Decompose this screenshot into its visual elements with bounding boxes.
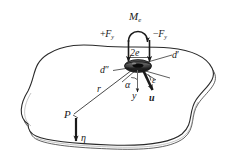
label-force-right: −Fy — [153, 29, 167, 39]
label-moment-sub: e — [138, 16, 141, 23]
label-d-prime: d′ — [172, 50, 179, 60]
label-d-prime-mark: ′ — [177, 49, 179, 60]
moment-arc-icon — [128, 32, 147, 43]
label-d-double-prime-mark: ″ — [105, 64, 109, 75]
label-moment-base: M — [129, 10, 138, 22]
figure-root: Me +Fy −Fy 2e d′ d″ r α ε y u P η — [0, 0, 228, 161]
plate-body — [21, 45, 215, 149]
label-force-right-sub: y — [164, 33, 167, 40]
label-d-double-prime: d″ — [100, 65, 109, 75]
label-alpha: α — [125, 80, 130, 90]
label-eta: η — [81, 133, 86, 143]
label-axis-y: y — [132, 91, 136, 101]
label-force-left: +Fy — [100, 29, 114, 39]
label-vector-u: u — [149, 93, 155, 103]
label-epsilon: ε — [152, 76, 156, 85]
label-crack-width: 2e — [130, 48, 139, 58]
label-radius: r — [97, 84, 101, 94]
label-point-p: P — [64, 109, 71, 120]
label-force-left-sub: y — [111, 33, 114, 40]
figure-drawing — [0, 0, 228, 161]
label-moment: Me — [129, 11, 141, 22]
